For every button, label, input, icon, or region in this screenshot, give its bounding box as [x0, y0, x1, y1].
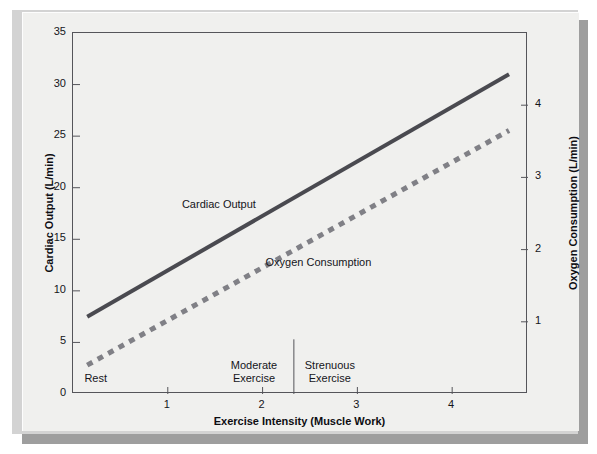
y-tick-label-left: 25 [42, 128, 66, 140]
y-tick-label-right: 3 [535, 169, 553, 181]
y-axis-title-right: Oxygen Consumption (L/min) [567, 136, 579, 290]
y-axis-title-left: Cardiac Output (L/min) [43, 153, 55, 272]
y-tick-label-left: 0 [42, 386, 66, 398]
series-line-oxygen-consumption [87, 130, 509, 365]
chart-panel: 0510152025303512341234Cardiac OutputOxyg… [22, 12, 579, 431]
y-tick-label-left: 35 [42, 25, 66, 37]
zone-label-line: Strenuous [305, 359, 355, 372]
series-annotation: Oxygen Consumption [266, 256, 372, 268]
zone-label-line: Exercise [231, 372, 277, 385]
x-tick-label: 2 [242, 398, 282, 410]
chart-screenshot: 0510152025303512341234Cardiac OutputOxyg… [0, 0, 597, 454]
zone-label-line: Rest [84, 372, 107, 385]
x-axis-title: Exercise Intensity (Muscle Work) [214, 415, 386, 427]
zone-label: StrenuousExercise [305, 359, 355, 385]
series-annotation: Cardiac Output [182, 198, 256, 210]
y-tick-label-right: 4 [535, 97, 553, 109]
x-tick-label: 4 [431, 398, 471, 410]
y-tick-label-left: 10 [42, 283, 66, 295]
y-tick-label-right: 1 [535, 314, 553, 326]
x-tick-label: 1 [147, 398, 187, 410]
series-line-cardiac-output [87, 74, 509, 316]
zone-label-line: Exercise [305, 372, 355, 385]
zone-label: ModerateExercise [231, 359, 277, 385]
x-tick-label: 3 [336, 398, 376, 410]
y-tick-label-right: 2 [535, 242, 553, 254]
y-tick-label-left: 5 [42, 334, 66, 346]
y-tick-label-left: 30 [42, 77, 66, 89]
zone-label: Rest [84, 372, 107, 385]
plot-area [72, 32, 527, 393]
plot-svg [73, 33, 528, 394]
zone-label-line: Moderate [231, 359, 277, 372]
